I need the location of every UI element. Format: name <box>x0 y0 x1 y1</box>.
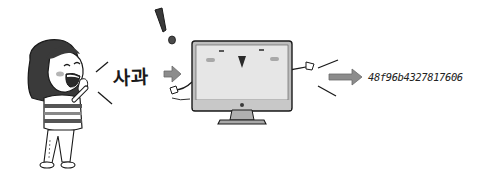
hash-output-label: 48f96b4327817606 <box>368 71 463 83</box>
computer-monitor <box>170 41 314 124</box>
girl-figure <box>28 40 88 168</box>
input-arrow-icon <box>164 66 181 82</box>
input-word-label: 사과 <box>113 61 150 89</box>
shout-lines <box>96 62 112 104</box>
exclamation-icon <box>155 8 176 44</box>
illustration-canvas <box>0 0 478 182</box>
output-arrow-icon <box>329 69 362 85</box>
